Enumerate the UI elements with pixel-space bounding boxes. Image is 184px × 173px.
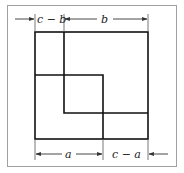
pythagoras-square-diagram: c − b b a c − a — [0, 0, 184, 173]
frame-border — [8, 6, 177, 167]
label-c-minus-a: c − a — [112, 148, 141, 161]
square-a-edges — [35, 75, 103, 139]
label-b: b — [101, 13, 108, 26]
outer-square — [35, 32, 148, 139]
label-a: a — [65, 148, 72, 161]
square-b-edges — [64, 32, 148, 113]
label-c-minus-b: c − b — [37, 13, 66, 26]
